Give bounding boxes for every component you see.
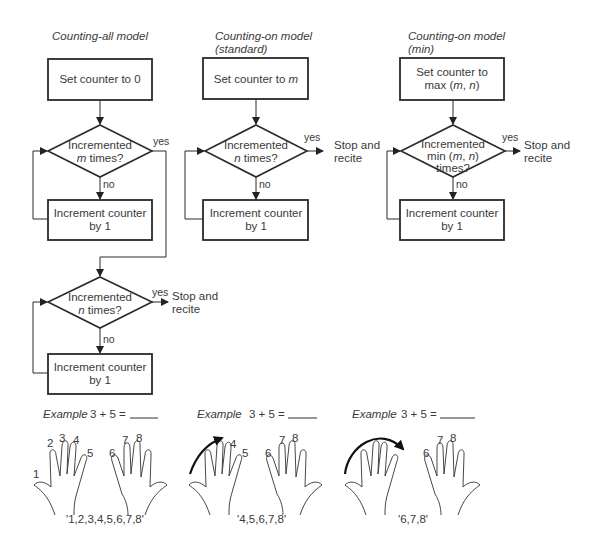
finger-number: 8	[292, 432, 298, 445]
finger-number: 3	[59, 432, 65, 445]
finger-number: 5	[242, 447, 248, 460]
col3-decision-line3: times?	[436, 162, 470, 175]
var-n: n	[78, 304, 84, 316]
example3-recital: '6,7,8'	[398, 513, 428, 526]
col1-decision2-line1: Incremented	[68, 291, 132, 304]
example3-label: Example	[352, 408, 397, 421]
col2-start-text: Set counter to m	[214, 73, 298, 86]
finger-number: 4	[230, 438, 236, 451]
col2-no-label: no	[259, 178, 271, 191]
finger-number: 5	[87, 447, 93, 460]
finger-number: 6	[423, 447, 429, 460]
col2-decision-line1: Incremented	[224, 139, 288, 152]
col3-outcome-line2: recite	[524, 152, 552, 165]
hands-example3	[345, 439, 480, 515]
col2-decision-line2: n times?	[234, 152, 277, 165]
finger-number: 1	[33, 468, 39, 481]
col1-loop-line2: by 1	[89, 220, 111, 233]
col3-loop-line1: Increment counter	[406, 207, 499, 220]
finger-number: 6	[265, 447, 271, 460]
example2-recital: '4,5,6,7,8'	[237, 513, 286, 526]
col3-loop-line2: by 1	[441, 220, 463, 233]
col1-no2-label: no	[103, 333, 115, 346]
finger-number: 2	[47, 437, 53, 450]
col1-start-text: Set counter to 0	[59, 73, 140, 86]
col1-decision1-line2: m times?	[77, 152, 124, 165]
col3-yes-label: yes	[502, 131, 518, 144]
col1-no-label: no	[103, 178, 115, 191]
example2-label: Example	[197, 408, 242, 421]
example3-equation: 3 + 5 =	[401, 408, 437, 421]
col1-outcome-line2: recite	[172, 303, 200, 316]
col1-loop-line1: Increment counter	[54, 207, 147, 220]
col3-no-label: no	[456, 178, 468, 191]
col3-title-line1: Counting-on model	[408, 30, 505, 43]
col2-outcome-line1: Stop and	[334, 139, 380, 152]
col3-start-line1: Set counter to	[416, 66, 488, 79]
col1-outcome-line1: Stop and	[172, 290, 218, 303]
example1-equation: 3 + 5 =	[90, 408, 126, 421]
finger-number: 7	[437, 434, 443, 447]
col1-yes2-label: yes	[152, 286, 168, 299]
col1-loop2-line2: by 1	[89, 374, 111, 387]
col1-yes-label: yes	[153, 135, 169, 148]
finger-number: 8	[136, 432, 142, 445]
col3-start-line2: max (m, n)	[425, 79, 480, 92]
finger-number: 6	[109, 447, 115, 460]
finger-number: 4	[73, 434, 79, 447]
col1-decision1-line1: Incremented	[68, 139, 132, 152]
finger-number: 7	[279, 434, 285, 447]
col2-outcome-line2: recite	[334, 152, 362, 165]
col1-loop2-line1: Increment counter	[54, 361, 147, 374]
example2-equation: 3 + 5 =	[249, 408, 285, 421]
col2-title-line1: Counting-on model	[215, 30, 312, 43]
hands-example1	[34, 441, 167, 515]
col2-yes-label: yes	[304, 131, 320, 144]
col2-loop-line2: by 1	[245, 220, 267, 233]
col3-title-line2: (min)	[408, 43, 434, 56]
finger-number: 7	[122, 434, 128, 447]
col1-decision2-line2: n times?	[78, 304, 121, 317]
example1-recital: '1,2,3,4,5,6,7,8'	[66, 513, 144, 526]
col1-title: Counting-all model	[52, 30, 148, 43]
col2-title-line2: (standard)	[215, 43, 267, 56]
finger-number: 8	[450, 432, 456, 445]
example1-label: Example	[43, 408, 88, 421]
col3-outcome-line1: Stop and	[524, 139, 570, 152]
hands-example2	[189, 438, 322, 515]
col2-loop-line1: Increment counter	[210, 207, 303, 220]
var-m: m	[77, 152, 87, 164]
